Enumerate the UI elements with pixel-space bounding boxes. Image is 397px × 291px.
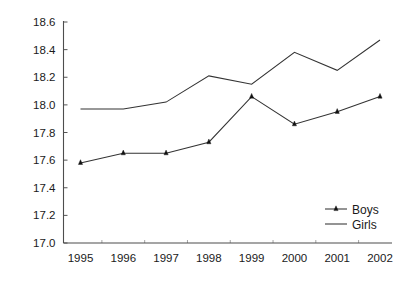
x-tick-label: 1995: [68, 252, 94, 264]
y-tick-label: 18.6: [33, 16, 55, 28]
line-chart: 17.017.217.417.617.818.018.218.418.6 199…: [0, 0, 397, 291]
chart-legend: BoysGirls: [325, 203, 379, 232]
legend-label: Boys: [352, 203, 379, 217]
x-tick-label: 2001: [324, 252, 350, 264]
legend-triangle-marker: [334, 206, 338, 211]
x-tick-label: 1999: [239, 252, 265, 264]
series-girls: [81, 40, 381, 109]
series-line-girls: [81, 40, 381, 109]
y-tick-label: 17.0: [33, 237, 55, 249]
legend-label: Girls: [352, 218, 377, 232]
y-tick-label: 18.0: [33, 99, 55, 111]
data-point-marker: [121, 150, 125, 155]
series-line-boys: [81, 97, 381, 163]
y-tick-label: 17.4: [33, 182, 56, 194]
y-axis-tick-marks: [64, 22, 68, 243]
legend-item-boys[interactable]: Boys: [325, 203, 379, 217]
y-tick-label: 17.6: [33, 154, 55, 166]
y-axis-tick-labels: 17.017.217.417.617.818.018.218.418.6: [33, 16, 56, 249]
data-point-marker: [250, 93, 254, 98]
series-boys: [78, 93, 382, 164]
series-layer: [78, 40, 382, 165]
legend-item-girls[interactable]: Girls: [325, 218, 377, 232]
x-tick-label: 1997: [153, 252, 179, 264]
data-point-marker: [378, 93, 382, 98]
x-tick-label: 1996: [110, 252, 136, 264]
y-tick-label: 17.2: [33, 209, 55, 221]
y-tick-label: 18.2: [33, 71, 55, 83]
y-tick-label: 17.8: [33, 127, 55, 139]
chart-canvas: 17.017.217.417.617.818.018.218.418.6 199…: [0, 0, 397, 291]
y-tick-label: 18.4: [33, 44, 56, 56]
x-axis-tick-labels: 19951996199719981999200020012002: [68, 252, 393, 264]
x-tick-label: 2000: [282, 252, 308, 264]
x-tick-label: 1998: [196, 252, 222, 264]
x-tick-label: 2002: [367, 252, 393, 264]
